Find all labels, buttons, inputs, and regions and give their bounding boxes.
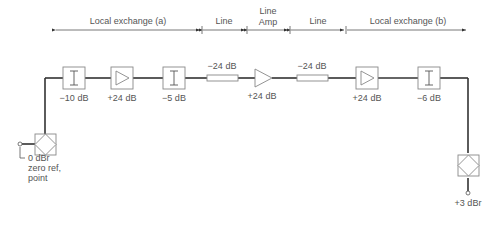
line-loss-label: −24 dB [208,61,237,71]
line-amplifier-icon [255,69,272,87]
zero-ref-label-3: point [28,173,48,183]
section-dimension-lines [56,26,466,34]
attenuator-label: −5 dB [162,93,186,103]
signal-path [22,78,468,192]
zero-ref-label-1: 0 dBr [28,153,50,163]
line-amp-gain-label: +24 dB [248,91,277,101]
attenuator-label: −10 dB [60,93,89,103]
section-label-line: Line [215,16,232,26]
section-label-line-amp-1: Line [259,6,276,16]
line-loss-label: −24 dB [298,61,327,71]
amplifier-label: +24 dB [108,93,137,103]
amplifier-label: +24 dB [353,93,382,103]
endpoint-markers [18,142,470,195]
zero-ref-label-2: zero ref, [28,163,61,173]
section-label-line-2: Line [309,16,326,26]
section-label-local-exchange-b: Local exchange (b) [370,16,447,26]
transmission-diagram [0,0,495,229]
hybrid-icon [35,134,479,176]
section-label-local-exchange-a: Local exchange (a) [90,16,167,26]
output-level-label: +3 dBr [455,198,482,208]
attenuator-label: −6 dB [417,93,441,103]
section-label-line-amp-2: Amp [259,17,278,27]
